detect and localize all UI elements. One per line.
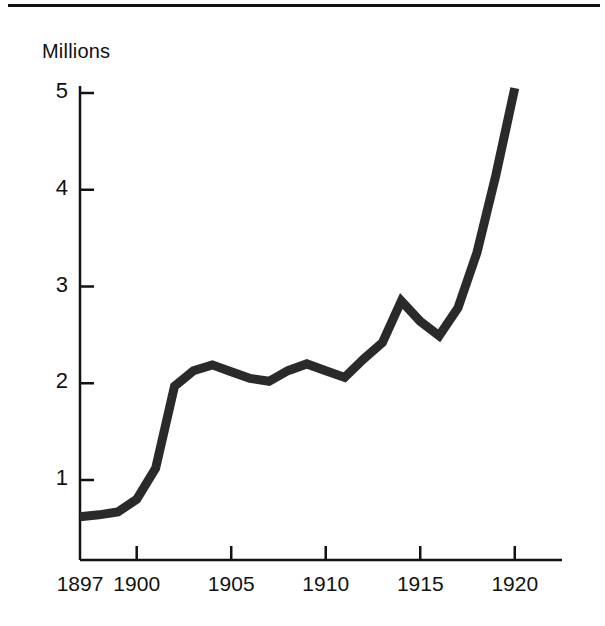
y-tick-label: 4 xyxy=(38,175,68,201)
y-ticks-group xyxy=(80,93,94,480)
y-tick-label: 1 xyxy=(38,465,68,491)
line-chart: Millions 12345 189719001905191019151920 xyxy=(0,0,605,626)
x-tick-label: 1920 xyxy=(480,572,550,596)
chart-page: Millions 12345 189719001905191019151920 xyxy=(0,0,605,626)
data-series-group xyxy=(80,88,515,517)
y-tick-label: 3 xyxy=(38,272,68,298)
x-tick-label: 1905 xyxy=(196,572,266,596)
x-tick-label: 1915 xyxy=(385,572,455,596)
chart-svg xyxy=(0,0,605,626)
y-tick-label: 2 xyxy=(38,368,68,394)
x-tick-label: 1910 xyxy=(291,572,361,596)
y-tick-label: 5 xyxy=(38,78,68,104)
axes-group xyxy=(80,86,562,560)
data-line xyxy=(80,88,515,517)
x-tick-label: 1900 xyxy=(102,572,172,596)
x-ticks-group xyxy=(137,546,515,560)
